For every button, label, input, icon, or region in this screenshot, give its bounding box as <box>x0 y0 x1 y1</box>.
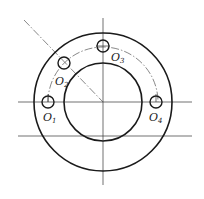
label-o4: O4 <box>149 111 163 125</box>
label-o1: O1 <box>43 111 57 125</box>
flange-drawing: O1 O2 O3 O4 <box>0 0 204 199</box>
label-o3: O3 <box>111 51 125 65</box>
label-o2: O2 <box>55 75 69 89</box>
hole-o4 <box>150 94 162 108</box>
hole-o1 <box>42 94 54 108</box>
